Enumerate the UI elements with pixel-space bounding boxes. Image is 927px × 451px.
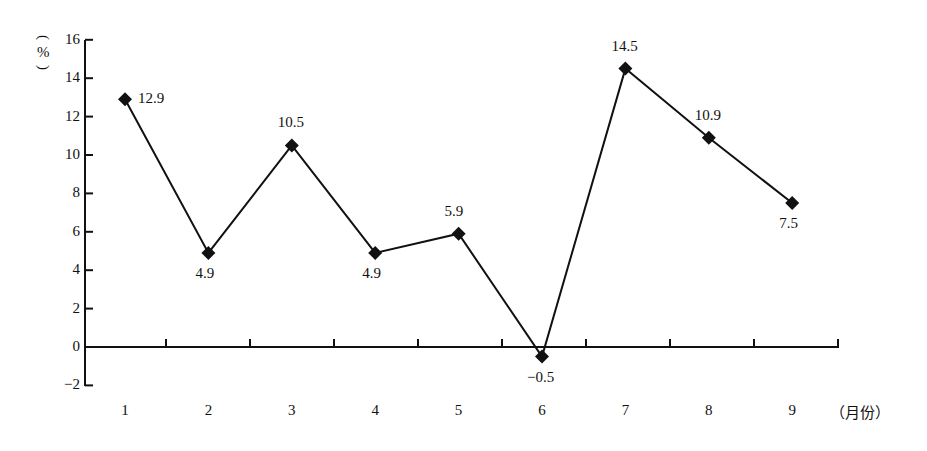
y-tick-label: 2: [50, 301, 80, 316]
x-tick-label: 1: [115, 403, 135, 418]
y-tick-label: 0: [50, 339, 80, 354]
data-label: −0.5: [527, 370, 554, 385]
data-label: 7.5: [779, 216, 798, 231]
x-tick-label: 2: [198, 403, 218, 418]
x-tick-label: 9: [782, 403, 802, 418]
x-tick-label: 5: [449, 403, 469, 418]
y-tick-label: −2: [50, 377, 80, 392]
data-point-marker: [118, 92, 132, 106]
data-point-marker: [452, 227, 466, 241]
data-label: 5.9: [445, 204, 464, 219]
data-label: 14.5: [611, 39, 637, 54]
data-label: 10.9: [695, 108, 721, 123]
y-tick-label: 6: [50, 224, 80, 239]
data-label: 4.9: [195, 266, 214, 281]
y-tick-label: 10: [50, 147, 80, 162]
y-axis-label: ( % ): [37, 30, 50, 75]
x-tick-label: 4: [365, 403, 385, 418]
data-label: 10.5: [278, 115, 304, 130]
y-tick-label: 12: [50, 109, 80, 124]
y-tick-label: 16: [50, 32, 80, 47]
x-tick-label: 3: [282, 403, 302, 418]
x-tick-label: 8: [699, 403, 719, 418]
data-label: 12.9: [138, 91, 164, 106]
data-label: 4.9: [362, 266, 381, 281]
y-tick-label: 4: [50, 262, 80, 277]
y-tick-label: 14: [50, 70, 80, 85]
x-tick-label: 7: [615, 403, 635, 418]
x-axis-unit-label: （月份）: [830, 401, 890, 422]
y-tick-label: 8: [50, 185, 80, 200]
x-tick-label: 6: [532, 403, 552, 418]
data-point-marker: [535, 350, 549, 364]
